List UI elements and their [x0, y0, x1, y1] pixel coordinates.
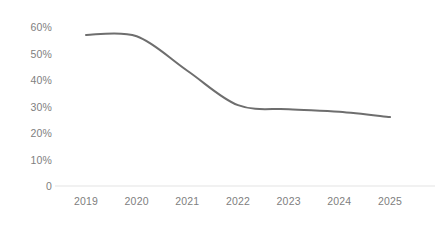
x-tick-label: 2025 [378, 196, 402, 207]
x-tick-label: 2022 [226, 196, 250, 207]
plot-area [0, 0, 440, 232]
x-tick-label: 2023 [277, 196, 301, 207]
x-tick-label: 2024 [327, 196, 351, 207]
series-line [86, 33, 390, 117]
x-tick-label: 2019 [74, 196, 98, 207]
x-tick-label: 2020 [125, 196, 149, 207]
x-tick-label: 2021 [175, 196, 199, 207]
line-chart: 010%20%30%40%50%60% 20192020202120222023… [0, 0, 440, 232]
